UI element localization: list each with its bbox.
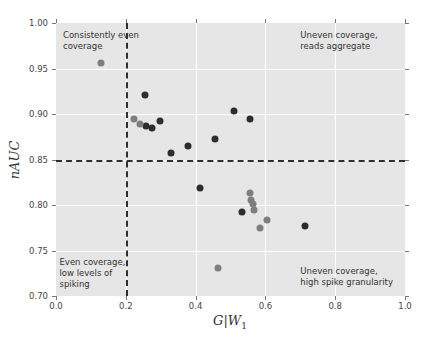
scatter-point-dark-points xyxy=(247,115,254,122)
y-tick-mark-right xyxy=(405,69,409,70)
x-axis-label-base: G|W xyxy=(213,313,241,328)
gridline-horizontal xyxy=(56,205,405,206)
y-tick-mark-right xyxy=(405,296,409,297)
x-tick-mark-top xyxy=(265,19,266,23)
quadrant-label-top-left-line: Consistently even xyxy=(63,30,139,41)
scatter-point-dark-points xyxy=(141,91,148,98)
y-tick-mark-right xyxy=(405,205,409,206)
x-tick-label: 0.2 xyxy=(119,301,133,311)
scatter-point-gray-points xyxy=(264,217,271,224)
x-tick-mark xyxy=(335,296,336,300)
y-tick-mark xyxy=(52,296,56,297)
scatter-point-dark-points xyxy=(168,150,175,157)
scatter-point-dark-points xyxy=(197,184,204,191)
scatter-point-gray-points xyxy=(214,264,221,271)
quadrant-label-top-right: Uneven coverage,reads aggregate xyxy=(300,30,377,52)
y-tick-label: 1.00 xyxy=(2,18,48,28)
y-tick-label: 0.95 xyxy=(2,64,48,74)
y-tick-mark-right xyxy=(405,160,409,161)
scatter-point-gray-points xyxy=(98,60,105,67)
gridline-horizontal xyxy=(56,69,405,70)
scatter-point-dark-points xyxy=(148,124,155,131)
y-tick-mark xyxy=(52,251,56,252)
scatter-point-gray-points xyxy=(137,121,144,128)
scatter-point-dark-points xyxy=(212,136,219,143)
scatter-point-dark-points xyxy=(157,118,164,125)
scatter-point-dark-points xyxy=(239,209,246,216)
y-tick-mark xyxy=(52,160,56,161)
y-tick-label: 0.70 xyxy=(2,291,48,301)
scatter-point-dark-points xyxy=(184,142,191,149)
x-tick-label: 0.6 xyxy=(259,301,273,311)
plot-area: Consistently evencoverageUneven coverage… xyxy=(56,23,405,296)
x-tick-mark xyxy=(56,296,57,300)
x-tick-label: 0.0 xyxy=(49,301,63,311)
y-tick-mark xyxy=(52,114,56,115)
quadrant-label-bottom-right-line: Uneven coverage, xyxy=(300,266,393,277)
scatter-point-gray-points xyxy=(256,224,263,231)
x-tick-mark-top xyxy=(56,19,57,23)
y-tick-label: 0.80 xyxy=(2,200,48,210)
quadrant-label-bottom-left-line: low levels of xyxy=(59,268,125,279)
x-tick-label: 0.8 xyxy=(328,301,342,311)
x-tick-mark-top xyxy=(196,19,197,23)
quadrant-label-top-left: Consistently evencoverage xyxy=(63,30,139,52)
x-tick-mark xyxy=(265,296,266,300)
x-tick-mark-top xyxy=(335,19,336,23)
x-axis-label: G|W1 xyxy=(213,313,247,331)
y-tick-label: 0.90 xyxy=(2,109,48,119)
y-tick-label: 0.75 xyxy=(2,246,48,256)
x-axis-label-subscript: 1 xyxy=(241,321,247,331)
scatter-plot-figure: Consistently evencoverageUneven coverage… xyxy=(0,0,427,347)
quadrant-label-bottom-left-line: Even coverage, xyxy=(59,257,125,268)
quadrant-label-top-right-line: reads aggregate xyxy=(300,41,377,52)
y-tick-mark-right xyxy=(405,23,409,24)
reference-line-horizontal xyxy=(56,160,405,162)
x-tick-mark-top xyxy=(126,19,127,23)
y-tick-mark-right xyxy=(405,114,409,115)
scatter-point-gray-points xyxy=(250,207,257,214)
y-tick-mark xyxy=(52,205,56,206)
x-tick-label: 0.4 xyxy=(189,301,203,311)
gridline-horizontal xyxy=(56,114,405,115)
y-tick-mark xyxy=(52,23,56,24)
quadrant-label-bottom-left: Even coverage,low levels ofspiking xyxy=(59,257,125,290)
x-tick-label: 1.0 xyxy=(398,301,412,311)
quadrant-label-bottom-right: Uneven coverage,high spike granularity xyxy=(300,266,393,288)
quadrant-label-top-right-line: Uneven coverage, xyxy=(300,30,377,41)
x-tick-mark xyxy=(126,296,127,300)
scatter-point-dark-points xyxy=(230,108,237,115)
y-tick-mark xyxy=(52,69,56,70)
quadrant-label-top-left-line: coverage xyxy=(63,41,139,52)
gridline-horizontal xyxy=(56,251,405,252)
y-axis-label-text: nAUC xyxy=(7,141,22,180)
quadrant-label-bottom-left-line: spiking xyxy=(59,279,125,290)
x-tick-mark xyxy=(196,296,197,300)
y-tick-mark-right xyxy=(405,251,409,252)
scatter-point-dark-points xyxy=(301,222,308,229)
y-axis-label: nAUC xyxy=(7,141,22,180)
quadrant-label-bottom-right-line: high spike granularity xyxy=(300,277,393,288)
